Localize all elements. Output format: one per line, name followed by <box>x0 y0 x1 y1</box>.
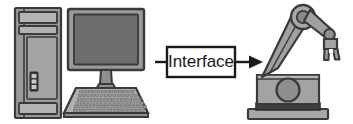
shoulder-circle <box>277 79 300 102</box>
key-row-3 <box>77 98 140 101</box>
keyboard[interactable] <box>64 88 148 117</box>
keyboard-front-lip <box>64 113 148 117</box>
tower-bottom-vent <box>19 103 57 114</box>
tower-button-1[interactable] <box>32 74 37 78</box>
tower-drive-bay-1 <box>19 12 57 23</box>
tower-button-2[interactable] <box>32 80 37 84</box>
key-row-5 <box>75 106 147 109</box>
key-spacebar <box>88 109 112 111</box>
diagram-canvas: Interface <box>0 0 353 124</box>
gripper-finger-left <box>324 49 329 60</box>
interface-box[interactable]: Interface <box>167 47 235 77</box>
monitor <box>68 9 144 91</box>
gripper-finger-right <box>333 49 340 60</box>
interface-label: Interface <box>168 52 234 71</box>
arrowhead-icon <box>249 56 263 69</box>
gripper-mount <box>324 39 337 49</box>
desktop-tower <box>15 8 61 118</box>
tower-drive-bay-2 <box>19 26 57 34</box>
tower-button-3[interactable] <box>32 85 37 89</box>
monitor-screen[interactable] <box>74 15 138 65</box>
monitor-stand-neck <box>100 70 112 84</box>
system-diagram: Interface <box>0 0 353 124</box>
gripper-gap <box>329 49 334 53</box>
